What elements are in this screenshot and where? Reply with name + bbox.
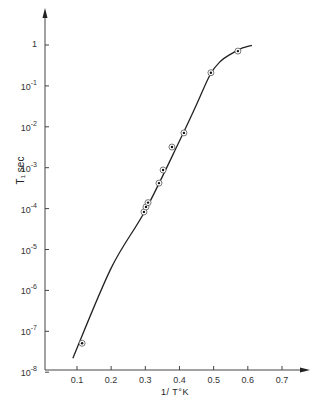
data-point bbox=[162, 169, 164, 171]
axes bbox=[43, 8, 311, 373]
data-point bbox=[145, 206, 147, 208]
y-axis-arrow-icon bbox=[43, 8, 48, 18]
data-point bbox=[183, 132, 185, 134]
x-tick-label: 0.6 bbox=[236, 375, 260, 385]
x-axis-title: 1/ T°K bbox=[150, 387, 200, 397]
x-tick-label: 0.1 bbox=[65, 375, 89, 385]
x-tick-label: 0.3 bbox=[133, 375, 157, 385]
data-points bbox=[79, 48, 241, 346]
x-tick-label: 0.4 bbox=[167, 375, 191, 385]
data-point bbox=[237, 50, 239, 52]
y-tick-label: 10-5 bbox=[1, 244, 37, 256]
fit-curve bbox=[73, 45, 252, 358]
y-tick-label: 10-8 bbox=[1, 366, 37, 378]
data-point bbox=[143, 211, 145, 213]
data-point bbox=[81, 342, 83, 344]
x-tick-label: 0.7 bbox=[270, 375, 294, 385]
data-point bbox=[158, 182, 160, 184]
y-tick-label: 10-4 bbox=[1, 203, 37, 215]
y-axis-title: T₁ sec bbox=[15, 153, 26, 189]
y-tick-label: 10-6 bbox=[1, 284, 37, 296]
y-tick-label: 1 bbox=[1, 39, 37, 49]
x-axis-arrow-icon bbox=[300, 368, 310, 373]
y-tick-label: 10-2 bbox=[1, 121, 37, 133]
y-tick-label: 10-7 bbox=[1, 325, 37, 337]
x-tick-label: 0.2 bbox=[99, 375, 123, 385]
data-point bbox=[210, 72, 212, 74]
y-tick-label: 10-1 bbox=[1, 80, 37, 92]
chart-canvas bbox=[0, 0, 316, 411]
x-tick-label: 0.5 bbox=[202, 375, 226, 385]
data-point bbox=[171, 146, 173, 148]
data-point bbox=[147, 201, 149, 203]
